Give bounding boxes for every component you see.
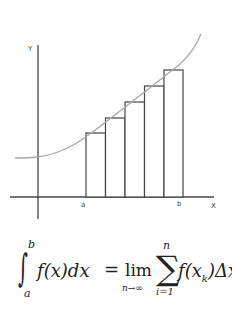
- equals-sign: =: [104, 259, 119, 280]
- rectangle-3: [125, 102, 145, 197]
- rectangle-4: [145, 86, 165, 197]
- riemann-rectangles: [86, 70, 183, 197]
- riemann-integral-formula: ∫ b a f(x)dx = lim n→∞ ∑ n i=1 f(xk)Δxk: [18, 240, 232, 302]
- integrand: f(x)dx: [37, 260, 90, 281]
- rectangle-5: [164, 70, 183, 197]
- x-axis-label: X: [211, 202, 216, 210]
- riemann-sum-diagram: Y X a b: [0, 0, 232, 240]
- rectangle-2: [106, 118, 126, 197]
- summand: f(xk)Δxk: [178, 260, 232, 284]
- y-axis-label: Y: [27, 45, 33, 53]
- label-a: a: [81, 201, 85, 209]
- sum-upper-bound: n: [163, 239, 170, 252]
- limit-subscript: n→∞: [122, 283, 143, 293]
- integral-upper-limit: b: [28, 238, 35, 251]
- summand-delta: )Δx: [208, 260, 232, 281]
- integral-lower-limit: a: [24, 287, 31, 300]
- integral-sign: ∫: [18, 249, 28, 287]
- label-b: b: [177, 200, 182, 208]
- summand-f: f(x: [178, 260, 202, 281]
- limit-operator: lim: [125, 260, 152, 280]
- rectangle-1: [86, 133, 106, 197]
- summation-sign: ∑: [156, 248, 180, 288]
- sum-lower-bound: i=1: [156, 286, 174, 297]
